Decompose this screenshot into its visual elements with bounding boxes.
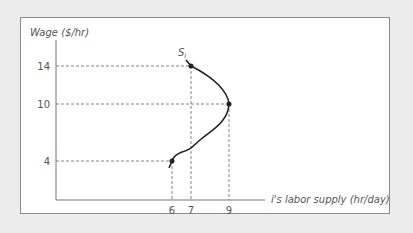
y-tick-10: 10: [37, 99, 50, 110]
dashed-guides: [56, 66, 229, 200]
x-tick-7: 7: [188, 205, 194, 216]
point-7-14: [189, 64, 194, 69]
x-tick-9: 9: [226, 205, 232, 216]
supply-curve: [169, 60, 229, 168]
x-axis-label: i's labor supply (hr/day): [271, 194, 390, 205]
point-9-10: [227, 102, 232, 107]
curve-label: Si: [178, 47, 186, 60]
labor-supply-chart: Wage ($/hr) Si 14 10 4 6 7 9 i's labor s…: [0, 0, 413, 233]
point-6-4: [170, 159, 175, 164]
x-tick-6: 6: [169, 205, 175, 216]
y-tick-14: 14: [37, 61, 50, 72]
y-axis-label: Wage ($/hr): [30, 27, 89, 38]
y-tick-4: 4: [44, 156, 50, 167]
